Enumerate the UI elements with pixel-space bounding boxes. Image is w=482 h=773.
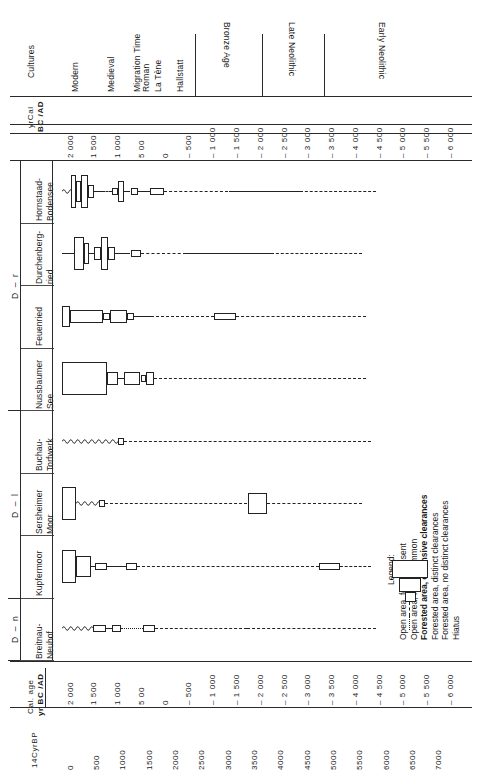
c14-axis-title: 14CyrBP: [30, 732, 39, 768]
axis-tick-label: 1 500: [89, 682, 98, 705]
c14-tick-label: 6000: [382, 750, 391, 770]
axis-tick-label: – 3 000: [303, 674, 312, 705]
openness-box: [143, 625, 155, 632]
legend-box-extensive-clearances: [405, 592, 416, 602]
axis-tick-label: – 1 500: [232, 674, 241, 705]
legend-item: Forested area, distinct clearances: [430, 512, 440, 640]
c14-tick-label: 2500: [197, 750, 206, 770]
c14-tick-label: 3500: [250, 750, 259, 770]
axis-tick-label: – 6 000: [446, 674, 455, 705]
region-col-line: [20, 160, 21, 660]
axis-tick-label: – 4 500: [375, 674, 384, 705]
c14-tick-label: 500: [92, 755, 101, 770]
legend-box-open-forest-common: [399, 578, 421, 592]
legend-item: Hiatus: [451, 616, 461, 640]
axis-tick-label: – 5 500: [422, 674, 431, 705]
c14-tick-label: 1500: [145, 750, 154, 770]
bottom-axis-title-1: Cal. age: [26, 679, 35, 714]
hiatus-dashed-line: [247, 628, 375, 629]
axis-tick-label: – 2 000: [256, 674, 265, 705]
axis-tick-label: – 3 500: [327, 674, 336, 705]
axis-tick-label: – 2 500: [280, 674, 289, 705]
c14-tick-label: 3000: [224, 750, 233, 770]
c14-tick-label: 5500: [355, 750, 364, 770]
c14-tick-label: 5000: [329, 750, 338, 770]
axis-tick-label: 0: [161, 700, 170, 705]
site-profile-row: [0, 0, 482, 773]
c14-tick-label: 6500: [408, 750, 417, 770]
wavy-line: [62, 624, 93, 633]
axis-tick-label: – 500: [184, 682, 193, 705]
axis-tick-label: 1 000: [113, 682, 122, 705]
axis-tick-label: – 1 000: [208, 674, 217, 705]
openness-box: [112, 625, 121, 632]
c14-tick-label: 1000: [118, 750, 127, 770]
c14-tick-label: 0: [66, 765, 75, 770]
axis-tick-label: – 4 000: [351, 674, 360, 705]
hiatus-dotted-line: [121, 628, 143, 629]
bottom-axis-title-sep: [45, 668, 46, 707]
c14-tick-label: 4500: [303, 750, 312, 770]
c14-tick-label: 7000: [434, 750, 443, 770]
legend-hiatus-line-2: [409, 616, 410, 630]
chronology-figure: Cultures ModernMedievalMigration TimeRom…: [0, 0, 482, 773]
hiatus-dashdot-line: [155, 628, 247, 629]
axis-tick-label: 5 00: [137, 687, 146, 705]
legend-box-open-forest-present: [392, 560, 428, 578]
openness-box: [93, 625, 105, 632]
bottom-rule-top: [10, 661, 472, 662]
c14-tick-label: 2000: [171, 750, 180, 770]
axis-tick-label: – 5 000: [398, 674, 407, 705]
legend-hiatus-line: [409, 602, 410, 616]
legend-item: Forested area, no distinct clearances: [440, 501, 450, 640]
bottom-rule-mid: [10, 707, 472, 708]
bottom-axis-title-2: yr BC /AD: [36, 673, 45, 716]
axis-tick-label: 2 000: [66, 682, 75, 705]
c14-tick-label: 4000: [276, 750, 285, 770]
sitename-col-line: [52, 160, 53, 660]
